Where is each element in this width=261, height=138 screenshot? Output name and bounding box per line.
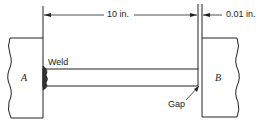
arrow-right-icon (190, 13, 197, 17)
length-dimension-label: 10 in. (107, 10, 129, 19)
gap-label: Gap (168, 100, 185, 109)
rod (43, 69, 198, 86)
arrow-gap-icon (203, 13, 210, 17)
block-b-label: B (215, 73, 221, 83)
weld-label: Weld (48, 58, 68, 67)
weld-bead (43, 66, 48, 90)
gap-dimension-label: 0.01 in. (226, 10, 256, 19)
arrow-left-icon (44, 13, 51, 17)
diagram-canvas (0, 0, 261, 138)
block-a-label: A (21, 73, 27, 83)
